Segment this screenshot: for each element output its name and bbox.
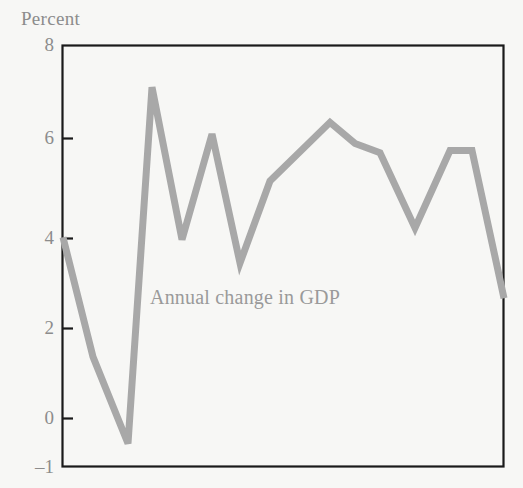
chart-figure: Percent 86420–1 Annual change in GDP xyxy=(0,0,523,488)
plot-area xyxy=(0,0,523,488)
series-annotation-label: Annual change in GDP xyxy=(150,286,340,309)
gdp-line-series xyxy=(63,87,504,443)
